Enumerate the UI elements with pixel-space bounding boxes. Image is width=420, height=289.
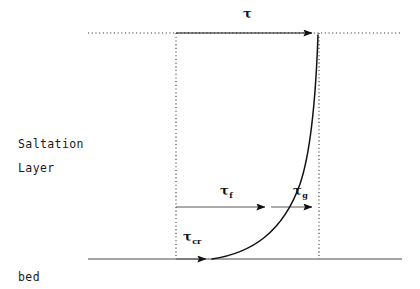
layer-label: Layer bbox=[18, 161, 55, 175]
tau-g-label: τg bbox=[293, 184, 307, 197]
tau-f-subscript: f bbox=[229, 190, 232, 200]
stress-profile-curve bbox=[212, 35, 318, 259]
tau-total-symbol: τ bbox=[243, 6, 252, 21]
bed-label: bed bbox=[18, 270, 40, 284]
tau-cr-subscript: cr bbox=[192, 236, 201, 246]
tau-cr-symbol: τ bbox=[183, 229, 192, 244]
figure-canvas: Saltation Layer bed τ τf τg τcr bbox=[0, 0, 420, 289]
tau-f-symbol: τ bbox=[220, 183, 229, 198]
saltation-label: Saltation bbox=[18, 137, 84, 151]
tau-g-subscript: g bbox=[302, 190, 308, 200]
tau-f-label: τf bbox=[220, 184, 232, 197]
tau-total-label: τ bbox=[243, 7, 252, 20]
tau-g-symbol: τ bbox=[293, 183, 302, 198]
tau-cr-label: τcr bbox=[183, 230, 201, 243]
